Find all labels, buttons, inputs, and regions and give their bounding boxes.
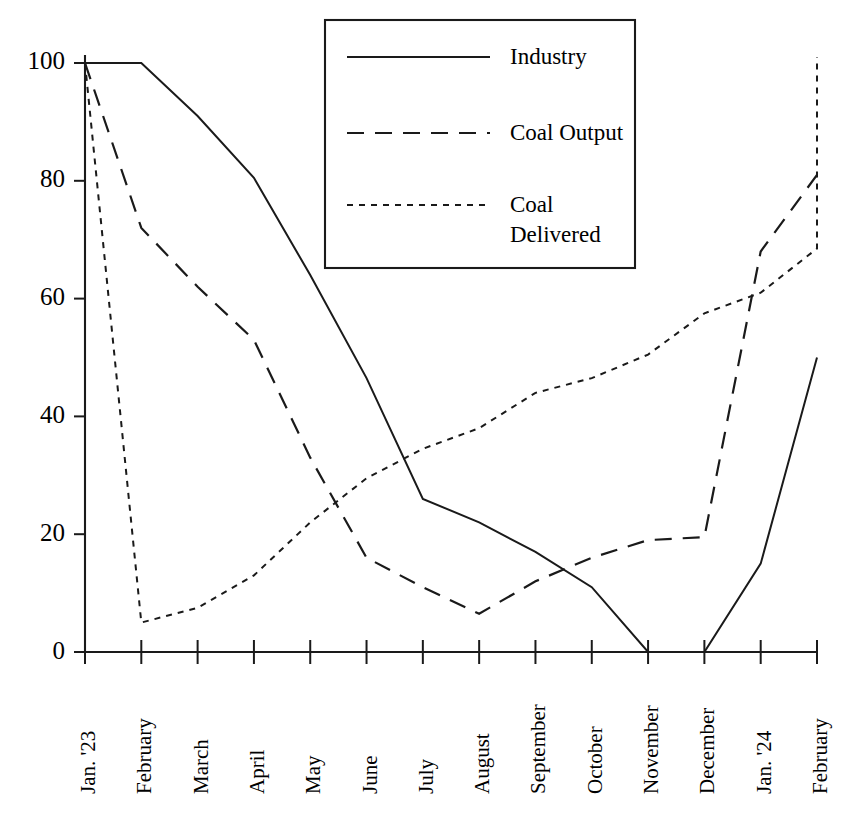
x-tick-label: May (301, 756, 326, 795)
x-tick-label: June (358, 756, 383, 795)
x-tick-label: February (808, 718, 833, 794)
y-tick-label-40: 40 (0, 401, 65, 429)
y-tick-label-0: 0 (0, 637, 65, 665)
x-tick-label: March (189, 739, 214, 794)
y-tick-label-20: 20 (0, 519, 65, 547)
x-tick-label: Jan. '23 (76, 731, 101, 794)
y-tick-label-60: 60 (0, 283, 65, 311)
legend-label-coal-output: Coal Output (510, 118, 623, 148)
x-tick-label: October (583, 726, 608, 794)
x-tick-label: November (639, 705, 664, 794)
x-tick-label: February (132, 718, 157, 794)
x-tick-label: September (526, 704, 551, 794)
y-tick-label-80: 80 (0, 165, 65, 193)
x-tick-label: August (470, 733, 495, 794)
legend-label-coal-delivered: Coal Delivered (510, 190, 601, 251)
x-tick-label: Jan. '24 (752, 731, 777, 794)
x-tick-label: July (414, 759, 439, 794)
chart-container: 100 80 60 40 20 0 Jan. '23FebruaryMarchA… (0, 0, 842, 820)
x-tick-label: December (695, 708, 720, 794)
legend-label-industry: Industry (510, 42, 587, 72)
chart-plot-area (0, 0, 842, 820)
y-tick-label-100: 100 (0, 47, 65, 75)
x-tick-label: April (245, 750, 270, 794)
